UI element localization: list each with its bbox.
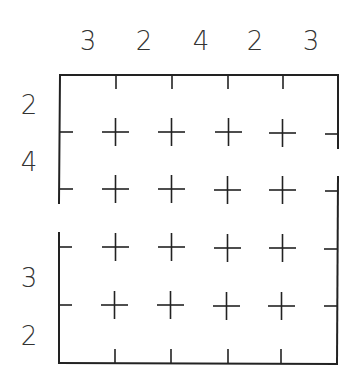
grid-lines — [0, 0, 362, 384]
